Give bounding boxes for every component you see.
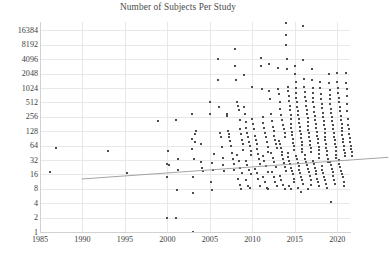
data-point [333, 179, 335, 181]
data-point [315, 127, 317, 129]
data-point [283, 128, 285, 130]
data-point [217, 58, 219, 60]
data-point [209, 113, 211, 115]
data-point [228, 136, 230, 138]
data-point [301, 151, 303, 153]
data-point [248, 169, 250, 171]
data-point [310, 184, 312, 186]
data-point [213, 153, 215, 155]
gridline-horizontal [40, 30, 350, 31]
data-point [312, 97, 314, 99]
data-point [346, 88, 348, 90]
data-point [264, 181, 266, 183]
data-point [333, 132, 335, 134]
data-point [263, 127, 265, 129]
gridline-vertical [337, 22, 338, 232]
data-point [259, 163, 261, 165]
data-point [299, 130, 301, 132]
data-point [338, 101, 340, 103]
data-point [306, 109, 308, 111]
data-point [284, 132, 286, 134]
data-point [313, 111, 315, 113]
data-point [329, 98, 331, 100]
data-point [239, 167, 241, 169]
x-tick-label: 1995 [105, 235, 145, 244]
data-point [302, 183, 304, 185]
data-point [210, 181, 212, 183]
data-point [344, 155, 346, 157]
data-point [166, 217, 168, 219]
data-point [335, 146, 337, 148]
data-point [346, 95, 348, 97]
data-point [324, 136, 326, 138]
data-point [315, 170, 317, 172]
data-point [282, 184, 284, 186]
data-point [311, 79, 313, 81]
data-point [263, 160, 265, 162]
data-point [277, 88, 279, 90]
data-point [306, 164, 308, 166]
data-point [236, 101, 238, 103]
data-point [242, 143, 244, 145]
data-point [290, 123, 292, 125]
data-point [300, 191, 302, 193]
data-point [336, 72, 338, 74]
data-point [310, 147, 312, 149]
data-point [348, 133, 350, 135]
data-point [267, 171, 269, 173]
data-point [346, 110, 348, 112]
data-point [251, 86, 253, 88]
data-point [157, 120, 159, 122]
data-point [287, 152, 289, 154]
data-point [279, 143, 281, 145]
data-point [348, 128, 350, 130]
data-point [270, 113, 272, 115]
data-point [230, 145, 232, 147]
data-point [301, 148, 303, 150]
data-point [234, 65, 236, 67]
data-point [192, 176, 194, 178]
data-point [345, 82, 347, 84]
data-point [246, 164, 248, 166]
data-point [194, 141, 196, 143]
data-point [289, 163, 291, 165]
data-point [328, 82, 330, 84]
data-point [290, 127, 292, 129]
data-point [273, 135, 275, 137]
data-point [238, 160, 240, 162]
data-point [295, 87, 297, 89]
gridline-horizontal [40, 203, 350, 204]
data-point [176, 189, 178, 191]
data-point [239, 184, 241, 186]
data-point [248, 141, 250, 143]
data-point [194, 133, 196, 135]
data-point [340, 119, 342, 121]
y-tick-label: 16 [2, 170, 38, 179]
data-point [311, 68, 313, 70]
data-point [307, 168, 309, 170]
data-point [312, 101, 314, 103]
data-point [264, 132, 266, 134]
data-point [338, 159, 340, 161]
data-point [301, 141, 303, 143]
gridline-vertical [82, 22, 83, 232]
data-point [265, 165, 267, 167]
y-tick-label: 128 [2, 127, 38, 136]
data-point [253, 128, 255, 130]
data-point [245, 160, 247, 162]
data-point [260, 57, 262, 59]
data-point [255, 139, 257, 141]
data-point [331, 168, 333, 170]
data-point [321, 169, 323, 171]
y-tick-label: 4 [2, 199, 38, 208]
data-point [309, 175, 311, 177]
data-point [304, 91, 306, 93]
gridline-horizontal [40, 160, 350, 161]
data-point [309, 140, 311, 142]
data-point [317, 138, 319, 140]
data-point [256, 172, 258, 174]
data-point [332, 128, 334, 130]
y-tick-label: 32 [2, 156, 38, 165]
data-point [315, 173, 317, 175]
